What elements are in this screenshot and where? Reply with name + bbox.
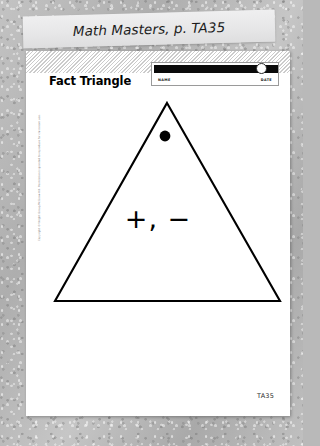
corner-dot-icon: [160, 131, 171, 142]
worksheet-page: Fact Triangle NAME DATE +, − Copyright ©…: [26, 51, 290, 416]
page-code-label: TA35: [257, 392, 274, 400]
fact-triangle-diagram: [26, 51, 290, 416]
caption-text: Math Masters, p. TA35: [73, 19, 226, 39]
copyright-notice: Copyright © Wright Group/McGraw-Hill. Pe…: [31, 241, 40, 351]
caption-banner: Math Masters, p. TA35: [23, 10, 276, 49]
copyright-text: Copyright © Wright Group/McGraw-Hill. Pe…: [38, 129, 41, 241]
